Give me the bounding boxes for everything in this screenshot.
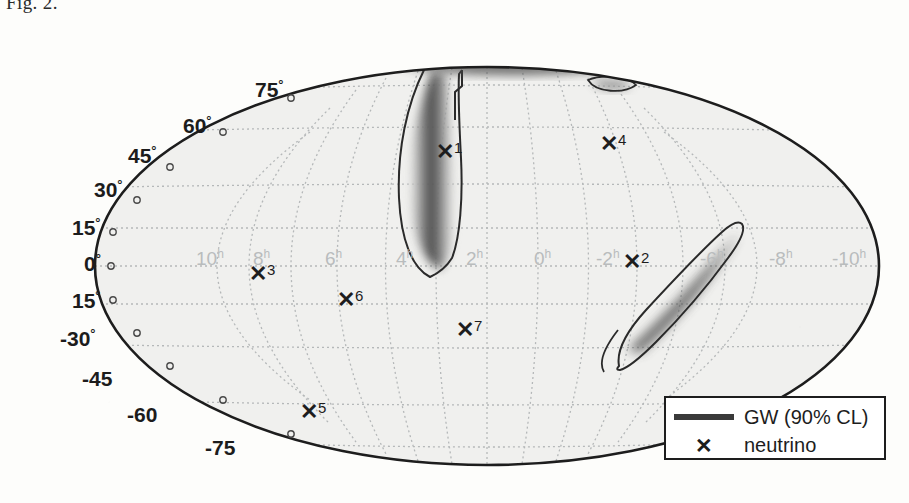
legend-row-gw: GW (90% CL)	[674, 403, 876, 431]
neutrino-marker: ✕5	[300, 400, 326, 423]
ra-label: -8h	[769, 248, 793, 268]
neutrino-marker: ✕1	[436, 140, 462, 163]
neutrino-marker: ✕6	[337, 288, 363, 311]
ra-label: 0h	[534, 248, 551, 268]
figure-root: Fig. 2.	[0, 0, 909, 503]
neutrino-marker: ✕3	[249, 262, 275, 285]
dec-label: 15°	[72, 289, 101, 311]
legend-label-gw: GW (90% CL)	[744, 406, 868, 429]
dec-label: 60°	[183, 114, 212, 136]
ra-label: 2h	[466, 248, 483, 268]
dec-label: 75°	[255, 78, 284, 100]
legend: GW (90% CL) ✕ neutrino	[664, 396, 886, 460]
gw-line-swatch-icon	[674, 414, 734, 420]
ra-label: 6h	[325, 248, 342, 268]
legend-label-neutrino: neutrino	[744, 434, 816, 457]
dec-label: 0°	[84, 252, 101, 274]
dec-label: 45°	[128, 144, 157, 166]
dec-label: 15°	[72, 216, 101, 238]
dec-label: -60	[127, 404, 157, 425]
ra-label: -6h	[700, 248, 724, 268]
ra-label: -10h	[832, 248, 866, 268]
dec-label: -75	[205, 437, 235, 458]
ra-label: 10h	[196, 248, 224, 268]
neutrino-marker: ✕4	[600, 132, 626, 155]
neutrino-marker: ✕2	[623, 250, 649, 273]
legend-row-neutrino: ✕ neutrino	[674, 431, 876, 459]
ra-label: -2h	[596, 248, 620, 268]
neutrino-marker: ✕7	[456, 318, 482, 341]
dec-label: -30°	[60, 327, 96, 349]
ra-label: 4h	[396, 248, 413, 268]
dec-label: -45	[82, 368, 112, 389]
dec-label: 30°	[94, 178, 123, 200]
neutrino-x-swatch-icon: ✕	[674, 435, 734, 456]
